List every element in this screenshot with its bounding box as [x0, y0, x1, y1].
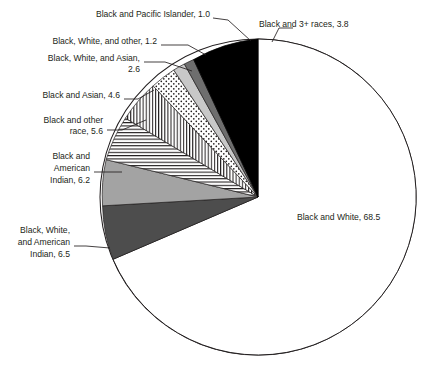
label-black-and-american-indian-line1: Black and: [5, 151, 90, 162]
label-black-white-and-asian-line2: 2.6: [5, 64, 140, 75]
label-black-and-other-race-line1: Black and other: [5, 115, 103, 126]
label-black-white-american-indian-line3: Indian, 6.5: [0, 249, 70, 260]
pie-chart-figure: Black and Pacific Islander, 1.0 Black an…: [0, 0, 430, 378]
label-black-and-3plus-races: Black and 3+ races, 3.8: [259, 19, 424, 30]
chart-footnote: [0, 369, 430, 378]
label-black-white-american-indian-line2: and American: [0, 237, 70, 248]
label-black-white-and-other: Black, White, and other, 1.2: [5, 36, 157, 47]
label-black-and-asian: Black and Asian, 4.6: [5, 90, 120, 101]
label-black-and-pacific-islander: Black and Pacific Islander, 1.0: [40, 9, 210, 20]
label-black-white-and-asian-line1: Black, White, and Asian,: [5, 53, 140, 64]
label-black-and-white: Black and White, 68.5: [297, 212, 427, 223]
leader-line-pacific-islander: [213, 18, 251, 41]
label-black-and-american-indian-line2: American: [5, 163, 90, 174]
label-black-and-american-indian-line3: Indian, 6.2: [5, 175, 90, 186]
label-black-and-other-race-line2: race, 5.6: [5, 126, 103, 137]
label-black-white-american-indian-line1: Black, White,: [0, 225, 70, 236]
leader-line-white-american-indian: [74, 246, 110, 248]
